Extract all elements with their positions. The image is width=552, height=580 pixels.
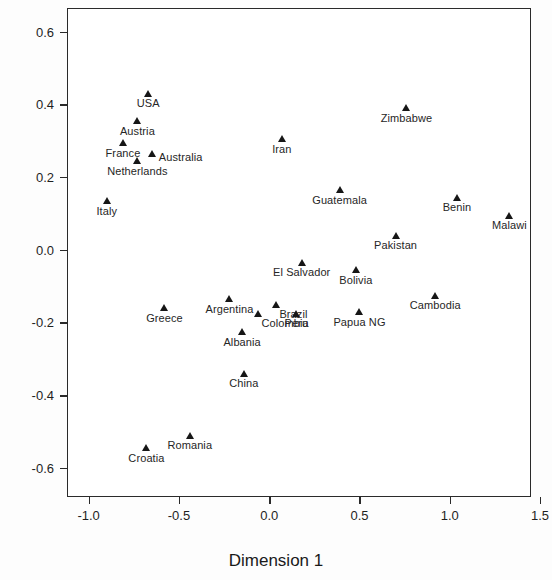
triangle-marker-icon: [160, 304, 168, 311]
triangle-marker-icon: [254, 310, 262, 317]
y-axis-tick-label: 0.4: [36, 97, 54, 112]
data-point-label: Pakistan: [374, 240, 417, 251]
y-axis-tick: [60, 177, 67, 178]
triangle-marker-icon: [142, 444, 150, 451]
data-point-label: Italy: [96, 206, 117, 217]
data-point-label: Albania: [223, 337, 260, 348]
triangle-marker-icon: [355, 308, 363, 315]
y-axis-tick: [60, 32, 67, 33]
plot-data-area: USAAustriaFranceAustraliaNetherlandsItal…: [67, 8, 531, 497]
triangle-marker-icon: [392, 232, 400, 239]
x-axis-tick: [540, 497, 541, 504]
x-axis-tick-label: 0.0: [260, 508, 278, 523]
triangle-marker-icon: [119, 139, 127, 146]
data-point-label: Iran: [272, 144, 291, 155]
data-point-label: Bolivia: [339, 275, 372, 286]
y-axis-tick-label: 0.6: [36, 24, 54, 39]
y-axis-tick: [60, 395, 67, 396]
data-point-label: Argentina: [205, 304, 253, 315]
data-point-label: Benin: [443, 202, 472, 213]
y-axis-tick-label: 0.2: [36, 170, 54, 185]
x-axis-tick: [179, 497, 180, 504]
data-point-label: Malawi: [492, 220, 527, 231]
triangle-marker-icon: [505, 212, 513, 219]
x-axis-tick-label: -0.5: [168, 508, 190, 523]
triangle-marker-icon: [336, 186, 344, 193]
data-point-label: Cambodia: [410, 300, 461, 311]
y-axis-tick-label: -0.2: [32, 315, 54, 330]
triangle-marker-icon: [186, 432, 194, 439]
triangle-marker-icon: [352, 266, 360, 273]
y-axis-tick-label: -0.6: [32, 460, 54, 475]
data-point-label: Greece: [146, 313, 183, 324]
scatter-plot-figure: USAAustriaFranceAustraliaNetherlandsItal…: [0, 0, 552, 580]
data-point-label: China: [229, 378, 258, 389]
triangle-marker-icon: [298, 259, 306, 266]
data-point-label: Romania: [167, 440, 212, 451]
data-point-label: Papua NG: [333, 317, 385, 328]
y-axis-tick: [60, 104, 67, 105]
triangle-marker-icon: [225, 295, 233, 302]
y-axis-tick-label: 0.0: [36, 242, 54, 257]
data-point-label: USA: [137, 98, 160, 109]
x-axis-tick-label: 1.5: [531, 508, 549, 523]
x-axis-tick-label: 0.5: [350, 508, 368, 523]
x-axis-tick: [450, 497, 451, 504]
data-point-label: Australia: [159, 152, 203, 163]
triangle-marker-icon: [238, 328, 246, 335]
data-point-label: Guatemala: [312, 195, 367, 206]
x-axis-tick: [89, 497, 90, 504]
x-axis-tick: [359, 497, 360, 504]
data-point-label: Zimbabwe: [381, 113, 433, 124]
triangle-marker-icon: [133, 117, 141, 124]
triangle-marker-icon: [240, 370, 248, 377]
triangle-marker-icon: [431, 292, 439, 299]
y-axis-tick-label: -0.4: [32, 388, 54, 403]
y-axis-title-wrapper: Dimension 2: [14, 143, 15, 144]
triangle-marker-icon: [148, 150, 156, 157]
x-axis-tick-label: -1.0: [77, 508, 99, 523]
triangle-marker-icon: [278, 135, 286, 142]
data-point-label: Netherlands: [107, 166, 167, 177]
triangle-marker-icon: [292, 310, 300, 317]
x-axis-title: Dimension 1: [0, 551, 552, 571]
data-point-label: Austria: [120, 126, 155, 137]
y-axis-tick: [60, 250, 67, 251]
data-point-label: Croatia: [128, 453, 164, 464]
triangle-marker-icon: [402, 104, 410, 111]
x-axis-tick: [269, 497, 270, 504]
data-point-label: Colombia: [261, 318, 308, 329]
triangle-marker-icon: [133, 157, 141, 164]
data-point-label: El Salvador: [273, 267, 330, 278]
triangle-marker-icon: [144, 90, 152, 97]
y-axis-tick: [60, 468, 67, 469]
y-axis-tick: [60, 322, 67, 323]
triangle-marker-icon: [272, 301, 280, 308]
triangle-marker-icon: [103, 197, 111, 204]
x-axis-tick-label: 1.0: [441, 508, 459, 523]
triangle-marker-icon: [453, 194, 461, 201]
